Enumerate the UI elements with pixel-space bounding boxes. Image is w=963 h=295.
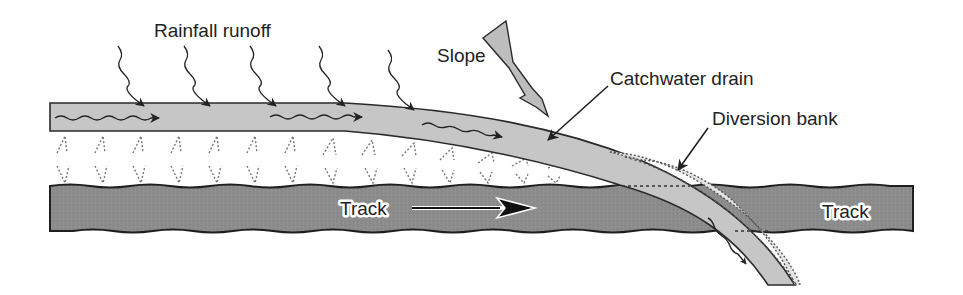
rain-arrow-icon — [184, 46, 210, 106]
track-label-right: Track — [822, 201, 869, 222]
slope-arrow-icon — [483, 21, 548, 116]
track-label-left: Track — [340, 198, 387, 219]
diversion-bank-label: Diversion bank — [712, 108, 838, 129]
rainfall-arrows — [118, 46, 414, 110]
rain-arrow-icon — [388, 50, 414, 110]
drainage-diagram: Rainfall runoff Slope Catchwater drain D… — [0, 0, 963, 295]
rain-arrow-icon — [250, 46, 276, 106]
catchwater-leader-line — [548, 86, 608, 140]
slope-label: Slope — [437, 45, 486, 66]
diagram-canvas: Rainfall runoff Slope Catchwater drain D… — [0, 0, 963, 295]
diversion-leader-line — [678, 128, 708, 170]
rainfall-runoff-label: Rainfall runoff — [154, 20, 272, 41]
rain-arrow-icon — [118, 46, 144, 106]
rain-arrow-icon — [319, 46, 345, 106]
catchwater-drain-label: Catchwater drain — [610, 68, 754, 89]
